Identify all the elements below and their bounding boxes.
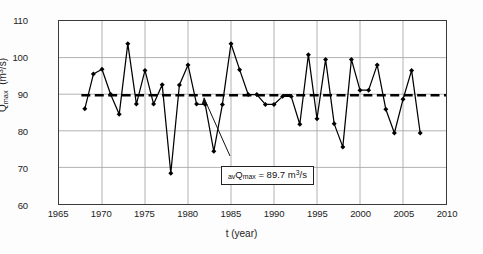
- x-tick-1975: 1975: [121, 208, 167, 219]
- x-tick-1995: 1995: [294, 208, 340, 219]
- y-axis-units-post: /s): [0, 58, 8, 69]
- x-axis-title: t (year): [0, 228, 483, 239]
- y-axis-units-exponent: 3: [0, 69, 5, 73]
- y-axis-title: Qmax (m3/s): [0, 58, 10, 112]
- annotation-middle: = 89.7 m: [256, 169, 296, 180]
- y-tick-80: 80: [0, 126, 28, 137]
- y-tick-60: 60: [0, 200, 28, 211]
- x-tick-2000: 2000: [338, 208, 384, 219]
- y-axis-subscript: max: [1, 90, 10, 104]
- x-tick-1980: 1980: [165, 208, 211, 219]
- y-axis-units-pre: (m: [0, 73, 8, 87]
- mean-value-annotation: avQmax = 89.7 m3/s: [221, 166, 314, 185]
- annotation-suffix: /s: [300, 169, 307, 180]
- annotation-leader-line: [200, 94, 260, 172]
- chart-figure: 60708090100110 1965197019751980198519901…: [0, 0, 483, 254]
- annotation-symbol: Q: [235, 169, 242, 180]
- y-tick-70: 70: [0, 163, 28, 174]
- y-tick-110: 110: [0, 15, 28, 26]
- x-tick-1985: 1985: [208, 208, 254, 219]
- x-tick-1970: 1970: [78, 208, 124, 219]
- x-tick-1990: 1990: [251, 208, 297, 219]
- x-tick-2010: 2010: [424, 208, 470, 219]
- x-tick-2005: 2005: [381, 208, 427, 219]
- x-tick-1965: 1965: [35, 208, 81, 219]
- y-axis-symbol: Q: [0, 104, 8, 112]
- annotation-subscript: max: [243, 173, 256, 180]
